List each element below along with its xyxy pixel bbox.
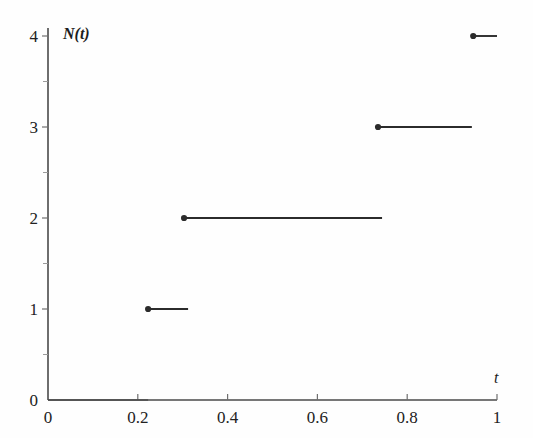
y-tick-label: 4 (30, 28, 39, 45)
step-start-dot (181, 215, 187, 221)
step-function-chart: 01234 00.20.40.60.81 N(t) t (0, 0, 533, 438)
step-start-dot (375, 124, 381, 130)
y-tick-label: 0 (30, 392, 39, 409)
step-start-dot (145, 306, 151, 312)
step-start-dot (470, 33, 476, 39)
y-tick-label: 1 (30, 301, 39, 318)
x-tick-label: 0.2 (127, 409, 148, 426)
x-tick-label: 0 (44, 409, 53, 426)
data-series-group (48, 33, 497, 400)
plot-canvas (0, 0, 533, 438)
x-tick-label: 0.6 (307, 409, 328, 426)
x-axis-label: t (494, 370, 498, 386)
x-tick-label: 0.4 (217, 409, 238, 426)
axes-group (48, 28, 497, 400)
y-tick-label: 3 (30, 119, 39, 136)
y-tick-label: 2 (30, 210, 39, 227)
x-tick-label: 1 (493, 409, 502, 426)
x-tick-label: 0.8 (397, 409, 418, 426)
y-axis-label: N(t) (63, 26, 90, 42)
